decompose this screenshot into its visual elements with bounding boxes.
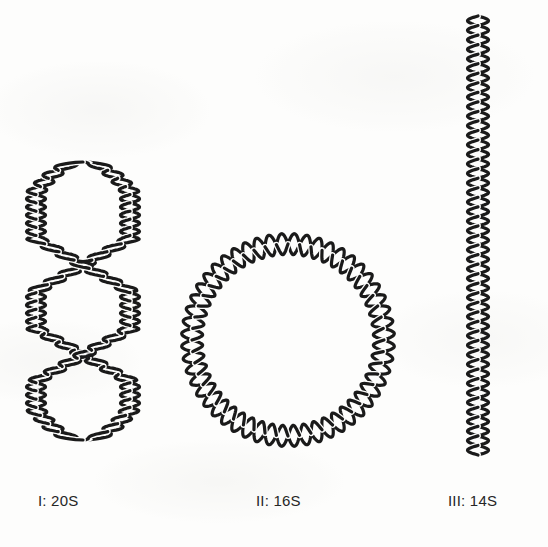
- dna-structures-drawing: [0, 0, 548, 547]
- label-form-iii: III: 14S: [448, 492, 497, 509]
- label-form-ii: II: 16S: [256, 492, 301, 509]
- label-form-i: I: 20S: [38, 492, 78, 509]
- dna-conformation-figure: I: 20S II: 16S III: 14S: [0, 0, 548, 547]
- dna-form-i-supercoiled: [27, 162, 140, 440]
- dna-form-iii-linear: [468, 16, 489, 455]
- dna-form-ii-circular: [182, 234, 395, 447]
